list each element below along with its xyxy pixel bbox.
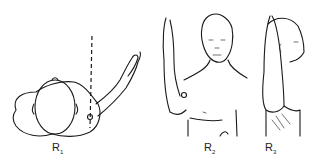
r1-ear-right bbox=[76, 104, 78, 114]
r3-torso bbox=[266, 106, 300, 136]
r3-face bbox=[280, 42, 299, 52]
r2-landmark-circle bbox=[182, 93, 187, 98]
panel-label-r3: R3 bbox=[265, 141, 276, 155]
r2-neck-shoulders bbox=[184, 60, 247, 80]
r3-raised-arm bbox=[263, 16, 284, 112]
r1-ear-left bbox=[33, 104, 35, 114]
r3-head bbox=[268, 18, 304, 62]
panel-label-r2: R2 bbox=[204, 141, 215, 155]
r1-arm bbox=[96, 52, 140, 116]
r1-head bbox=[35, 80, 75, 134]
r1-shoulders bbox=[13, 82, 100, 137]
r2-nipple bbox=[203, 112, 206, 113]
r2-face bbox=[209, 40, 225, 55]
r3-ribs bbox=[272, 114, 290, 130]
r2-torso bbox=[188, 110, 237, 136]
panel-label-r1: R1 bbox=[52, 141, 63, 155]
r2-raised-arm bbox=[163, 18, 186, 114]
panel-r1-drawing bbox=[13, 36, 140, 136]
panel-r3-drawing bbox=[263, 16, 304, 136]
panel-r2-drawing bbox=[163, 14, 247, 136]
